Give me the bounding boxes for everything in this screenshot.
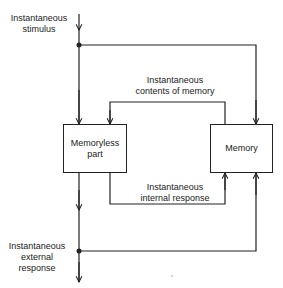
label-instantaneous-stimulus: Instantaneous stimulus (4, 13, 74, 35)
junction-dot-response (77, 249, 82, 254)
memoryless-part-box: Memoryless part (63, 124, 127, 173)
label-internal-response: Instantaneous internal response (128, 182, 222, 204)
junction-dot-stimulus (77, 43, 82, 48)
label-contents-of-memory: Instantaneous contents of memory (125, 75, 225, 97)
label-external-response: Instantaneous external response (2, 241, 72, 274)
memory-box: Memory (210, 124, 273, 173)
